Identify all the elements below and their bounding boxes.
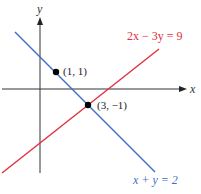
y-axis-label: y (36, 2, 43, 16)
y-axis-arrow-icon (37, 17, 43, 25)
x-axis-label: x (189, 82, 196, 96)
linear-system-graph: x y 2x − 3y = 9 x + y = 2 (1, 1) (3, −1) (0, 0, 201, 194)
y-axis (37, 17, 43, 173)
red-line-equation-label: 2x − 3y = 9 (127, 29, 183, 43)
x-axis-arrow-icon (179, 86, 187, 92)
x-axis (2, 86, 187, 92)
intersection-point-3-neg1 (85, 102, 91, 108)
line-x-plus-y-eq-2 (15, 32, 155, 172)
point-1-1 (53, 69, 59, 75)
blue-line-equation-label: x + y = 2 (132, 173, 178, 187)
point-1-1-label: (1, 1) (63, 65, 87, 78)
point-3-neg1-label: (3, −1) (97, 99, 127, 112)
